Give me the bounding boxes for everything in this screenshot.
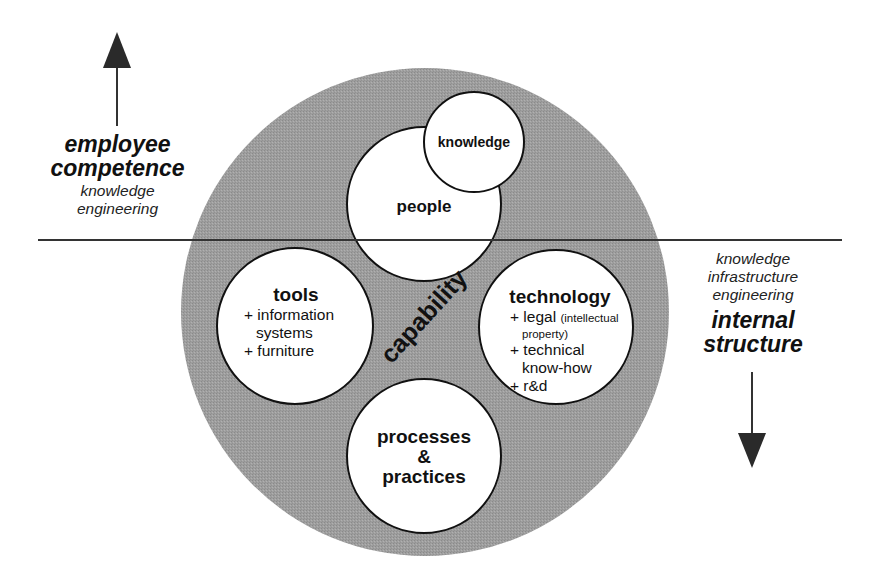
technology-title: technology xyxy=(500,286,620,308)
right-dimension-subtitle-3: engineering xyxy=(678,286,828,304)
up-arrow-icon xyxy=(103,32,131,126)
technology-item-technical-2: know-how xyxy=(500,359,620,377)
processes-content: processes & practices xyxy=(364,426,484,488)
left-dimension-subtitle-2: engineering xyxy=(20,200,215,218)
left-dimension-subtitle-1: knowledge xyxy=(20,182,215,200)
knowledge-label: knowledge xyxy=(424,131,524,153)
right-dimension-subtitle-2: infrastructure xyxy=(678,268,828,286)
technology-content: technology + legal (intellectual propert… xyxy=(500,286,620,395)
processes-title-2: & xyxy=(364,448,484,466)
left-dimension-title-1: employee xyxy=(20,132,215,156)
processes-title-1: processes xyxy=(364,426,484,448)
technology-item-legal: + legal (intellectual xyxy=(500,308,620,327)
right-dimension-title-1: internal xyxy=(678,308,828,332)
right-dimension: knowledge infrastructure engineering int… xyxy=(678,250,828,356)
technology-legal-note-2: property) xyxy=(500,327,620,341)
right-dimension-subtitle-1: knowledge xyxy=(678,250,828,268)
tools-item-3: + furniture xyxy=(244,342,354,360)
tools-item-1: + information xyxy=(244,306,354,324)
down-arrow-icon xyxy=(738,372,766,468)
left-dimension: employee competence knowledge engineerin… xyxy=(20,132,215,218)
left-dimension-title-2: competence xyxy=(20,156,215,180)
technology-legal-note: (intellectual xyxy=(560,312,618,324)
tools-title: tools xyxy=(238,284,354,306)
technology-item-technical: + technical xyxy=(500,341,620,359)
right-dimension-title-2: structure xyxy=(678,332,828,356)
technology-legal-text: + legal xyxy=(510,308,556,325)
technology-item-rnd: + r&d xyxy=(500,377,620,395)
tools-content: tools + information systems + furniture xyxy=(244,284,354,360)
tools-item-2: systems xyxy=(244,324,354,342)
processes-title-3: practices xyxy=(364,466,484,488)
people-label: people xyxy=(374,196,474,218)
